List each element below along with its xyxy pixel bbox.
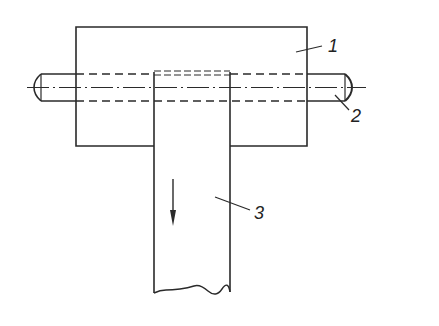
technical-drawing: 1 2 3 — [0, 0, 439, 326]
bar-hidden-top — [154, 71, 230, 75]
leader-line-3 — [215, 197, 250, 210]
bar-outline — [154, 72, 230, 294]
label-2: 2 — [350, 106, 361, 126]
leader-line-2 — [335, 95, 349, 110]
block-outline — [76, 27, 307, 146]
arrow-down-icon — [170, 179, 176, 226]
label-3: 3 — [254, 203, 264, 223]
label-1: 1 — [328, 36, 338, 56]
leader-line-1 — [296, 46, 322, 52]
